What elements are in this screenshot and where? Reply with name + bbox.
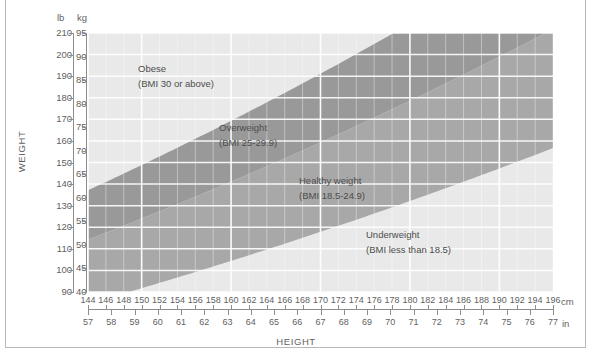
- x-tickmark-cm-158: [213, 305, 214, 310]
- y-tickmark-kg-45: [82, 268, 87, 269]
- x-tickmark-cm-174: [356, 305, 357, 310]
- x-tickmark-cm-172: [338, 305, 339, 310]
- x-tickmark-in-61: [181, 310, 182, 315]
- x-tickmark-in-76: [530, 310, 531, 315]
- y-tickmark-lb-110: [69, 249, 74, 250]
- zone-bmi-overweight: (BMI 25-29.9): [219, 135, 277, 150]
- y-tickmark-kg-95: [82, 33, 87, 34]
- x-tickmark-in-57: [88, 310, 89, 315]
- x-tick-in-72: 72: [432, 317, 442, 328]
- x-tickmark-in-74: [483, 310, 484, 315]
- zone-label-obese: Obese (BMI 30 or above): [138, 61, 214, 91]
- x-tickmark-in-72: [437, 310, 438, 315]
- x-tick-in-62: 62: [199, 317, 209, 328]
- x-tickmark-cm-192: [517, 305, 518, 310]
- x-tick-in-60: 60: [153, 317, 163, 328]
- x-tickmark-in-58: [111, 310, 112, 315]
- x-tickmark-in-59: [135, 310, 136, 315]
- x-tickmark-cm-148: [124, 305, 125, 310]
- x-tickmark-in-63: [228, 310, 229, 315]
- x-tickmark-in-69: [367, 310, 368, 315]
- x-tickmark-cm-150: [142, 305, 143, 310]
- x-tick-in-70: 70: [385, 317, 395, 328]
- x-tick-in-64: 64: [246, 317, 256, 328]
- x-tick-in-57: 57: [83, 317, 93, 328]
- y-tickmark-lb-140: [69, 184, 74, 185]
- y-tickmark-kg-75: [82, 127, 87, 128]
- x-tickmark-cm-168: [303, 305, 304, 310]
- y-tickmark-kg-40: [82, 292, 87, 293]
- y-tickmark-lb-210: [69, 33, 74, 34]
- zone-label-underweight: Underweight (BMI less than 18.5): [366, 227, 451, 257]
- zone-label-healthy: Healthy weight (BMI 18.5-24.9): [299, 173, 365, 203]
- y-tickmark-kg-55: [82, 221, 87, 222]
- x-tickmark-cm-146: [106, 305, 107, 310]
- x-tickmark-cm-182: [428, 305, 429, 310]
- x-tickmark-in-73: [460, 310, 461, 315]
- x-tick-in-58: 58: [106, 317, 116, 328]
- y-tickmark-kg-90: [82, 57, 87, 58]
- zone-label-overweight: Overweight (BMI 25-29.9): [219, 120, 277, 150]
- x-tickmark-cm-160: [231, 305, 232, 310]
- x-axis-title: HEIGHT: [0, 336, 592, 347]
- y-tickmark-kg-85: [82, 80, 87, 81]
- x-tickmark-cm-180: [410, 305, 411, 310]
- x-tickmark-in-60: [158, 310, 159, 315]
- zone-bmi-obese: (BMI 30 or above): [138, 76, 214, 91]
- x-tickmark-cm-184: [446, 305, 447, 310]
- x-tickmark-in-67: [321, 310, 322, 315]
- y-tickmark-lb-200: [69, 55, 74, 56]
- x-tickmark-cm-154: [177, 305, 178, 310]
- zone-name-overweight: Overweight: [219, 122, 267, 133]
- x-tick-in-59: 59: [129, 317, 139, 328]
- x-tick-in-75: 75: [501, 317, 511, 328]
- x-tick-in-76: 76: [525, 317, 535, 328]
- y-tickmark-kg-80: [82, 104, 87, 105]
- y-axis-unit-lb: lb: [57, 12, 64, 23]
- x-tickmark-in-71: [414, 310, 415, 315]
- x-tick-in-67: 67: [315, 317, 325, 328]
- x-tickmark-cm-164: [267, 305, 268, 310]
- x-tickmark-in-75: [507, 310, 508, 315]
- x-tickmark-cm-178: [392, 305, 393, 310]
- x-tickmark-in-62: [204, 310, 205, 315]
- x-tick-in-66: 66: [292, 317, 302, 328]
- x-tickmark-in-64: [251, 310, 252, 315]
- y-tickmark-kg-65: [82, 174, 87, 175]
- bmi-chart-figure: lb kg cm in 2102001901801701601501401301…: [0, 0, 592, 355]
- zone-name-underweight: Underweight: [366, 229, 419, 240]
- y-tickmark-kg-50: [82, 245, 87, 246]
- y-tickmark-kg-60: [82, 198, 87, 199]
- zone-name-obese: Obese: [138, 63, 166, 74]
- x-tick-in-71: 71: [408, 317, 418, 328]
- x-tick-in-61: 61: [176, 317, 186, 328]
- zone-name-healthy: Healthy weight: [299, 175, 361, 186]
- y-tickmark-kg-70: [82, 151, 87, 152]
- x-tickmark-in-65: [274, 310, 275, 315]
- y-tickmark-lb-120: [69, 227, 74, 228]
- x-tick-in-65: 65: [269, 317, 279, 328]
- zone-bmi-underweight: (BMI less than 18.5): [366, 242, 451, 257]
- x-axis-unit-cm: cm: [561, 296, 574, 307]
- x-tickmark-in-77: [553, 310, 554, 315]
- x-tick-in-63: 63: [222, 317, 232, 328]
- y-tickmark-lb-130: [69, 206, 74, 207]
- y-tickmark-lb-90: [69, 292, 74, 293]
- y-tickmark-lb-170: [69, 119, 74, 120]
- x-tick-in-68: 68: [339, 317, 349, 328]
- x-tickmark-cm-190: [499, 305, 500, 310]
- y-axis-unit-kg: kg: [77, 12, 87, 23]
- y-tickmark-lb-160: [69, 141, 74, 142]
- y-axis-title: WEIGHT: [16, 122, 27, 182]
- x-tick-in-74: 74: [478, 317, 488, 328]
- x-tick-in-73: 73: [455, 317, 465, 328]
- x-tickmark-cm-186: [464, 305, 465, 310]
- y-tickmark-lb-180: [69, 98, 74, 99]
- y-tickmark-lb-100: [69, 270, 74, 271]
- x-axis-ticks-in: 5758596061626364656667686970717273747576…: [88, 317, 553, 329]
- x-tick-in-69: 69: [362, 317, 372, 328]
- x-tickmark-cm-156: [195, 305, 196, 310]
- x-tickmark-in-68: [344, 310, 345, 315]
- x-tickmark-cm-152: [160, 305, 161, 310]
- x-tickmark-cm-176: [374, 305, 375, 310]
